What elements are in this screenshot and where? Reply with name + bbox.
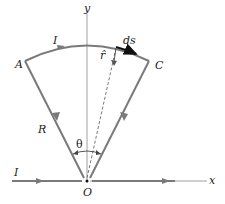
x-axis-label: x [209,174,216,187]
r-dashed-line [87,48,116,178]
theta-arrow-right-icon [96,150,101,155]
r-hat-label: r̂ [100,49,106,62]
y-axis-label: y [83,2,91,15]
ds-label: ds [123,34,136,47]
origin-point [86,180,89,183]
wire-co [90,61,149,178]
current-left-label: I [13,166,19,179]
point-a-label: A [14,58,23,71]
current-top-label: I [52,34,58,47]
origin-label: O [83,186,92,199]
theta-label: θ [76,138,83,151]
incoming-current-arrow-icon [36,178,44,184]
outgoing-current-arrow-icon [162,178,170,184]
radius-label: R [37,123,46,136]
diagram-canvas: y x I I A C O R θ ds r̂ [0,0,225,204]
point-c-label: C [155,59,164,72]
wire-oa [25,61,84,178]
